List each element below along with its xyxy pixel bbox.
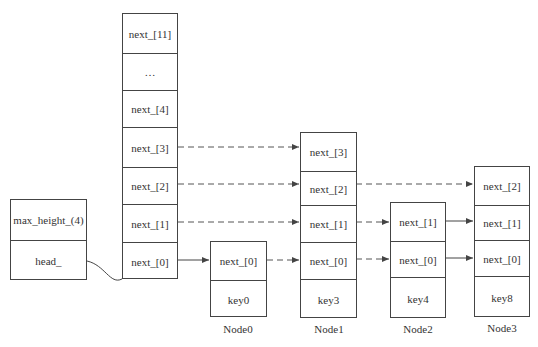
head-next-0: next_[0] <box>123 242 177 280</box>
head-next-2: next_[2] <box>123 167 177 204</box>
node2-next-0: next_[0] <box>391 241 445 277</box>
node3: next_[2] next_[1] next_[0] key8 <box>474 166 530 317</box>
node2-key: key4 <box>391 277 445 319</box>
head-next-1: next_[1] <box>123 204 177 242</box>
node0-label: Node0 <box>203 323 273 335</box>
head-next-4: next_[4] <box>123 90 177 127</box>
node0-key: key0 <box>211 280 266 318</box>
node3-key: key8 <box>475 276 529 318</box>
skiplist-meta-box: max_height_(4) head_ <box>10 199 87 280</box>
node1-next-2: next_[2] <box>301 171 356 205</box>
node1: next_[3] next_[2] next_[1] next_[0] key3 <box>300 132 357 318</box>
head-next-11: next_[11] <box>123 14 177 53</box>
node2-label: Node2 <box>383 323 453 335</box>
node1-label: Node1 <box>294 323 364 335</box>
head-node: next_[11] … next_[4] next_[3] next_[2] n… <box>122 13 178 279</box>
connector-layer <box>0 0 538 347</box>
node1-next-1: next_[1] <box>301 205 356 242</box>
head-pointer-cell: head_ <box>11 240 86 281</box>
node3-label: Node3 <box>467 322 537 334</box>
node3-next-2: next_[2] <box>475 167 529 205</box>
node3-next-0: next_[0] <box>475 240 529 276</box>
node2-next-1: next_[1] <box>391 203 445 241</box>
node1-key: key3 <box>301 279 356 319</box>
node0: next_[0] key0 <box>210 241 267 317</box>
node1-next-3: next_[3] <box>301 133 356 171</box>
max-height-cell: max_height_(4) <box>11 200 86 240</box>
node0-next-0: next_[0] <box>211 242 266 280</box>
head-ellipsis: … <box>123 53 177 90</box>
node1-next-0: next_[0] <box>301 242 356 279</box>
node2: next_[1] next_[0] key4 <box>390 202 446 318</box>
node3-next-1: next_[1] <box>475 205 529 240</box>
head-next-3: next_[3] <box>123 127 177 167</box>
